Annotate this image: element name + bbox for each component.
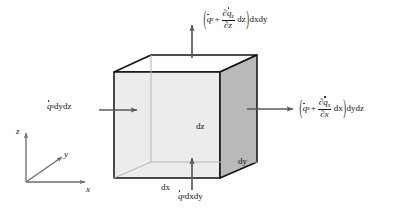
flux-out-z-q: q — [207, 15, 212, 24]
flux-out-z-fraction: ∂qz ∂z — [222, 9, 235, 30]
flux-out-x-close-paren: ) — [343, 99, 347, 119]
flux-out-x-q: q — [303, 104, 308, 113]
flux-out-z-close-paren: ) — [246, 10, 250, 30]
flux-in-x-label: qx dydz — [47, 102, 71, 111]
flux-out-z-label: ( qz + ∂qz ∂z dz ) dxdy — [203, 9, 267, 30]
heat-conduction-differential-element-figure: ( qz + ∂qz ∂z dz ) dxdy qx dydz ( qx — [0, 0, 396, 210]
dimension-label-dy: dy — [238, 157, 247, 166]
control-volume-cube — [114, 55, 257, 178]
flux-in-z-q: q — [178, 192, 183, 201]
flux-out-x-tail: dydz — [347, 104, 365, 113]
flux-out-x-den-var: x — [325, 109, 329, 119]
flux-in-z-label: qz dxdy — [178, 192, 203, 201]
flux-out-z-dz: dz — [236, 15, 246, 24]
flux-out-z-tail: dxdy — [249, 15, 267, 24]
axis-label-y: y — [64, 150, 68, 159]
flux-out-z-num-q-sub: z — [231, 14, 233, 20]
axis-label-z: z — [16, 127, 20, 136]
flux-out-z-plus: + — [213, 15, 220, 24]
flux-out-x-num-q-sub: x — [328, 103, 330, 109]
axis-y-line — [26, 157, 62, 182]
flux-out-x-dx: dx — [332, 104, 343, 113]
dimension-label-dx: dx — [161, 183, 170, 192]
flux-in-x-q: q — [47, 102, 52, 111]
coordinate-axes — [26, 133, 85, 182]
flux-out-x-fraction: ∂qx ∂x — [318, 98, 331, 119]
dimension-label-dz: dz — [196, 122, 205, 131]
axis-label-x: x — [86, 185, 90, 194]
flux-out-x-label: ( qx + ∂qx ∂x dx ) dydz — [299, 98, 364, 119]
flux-in-x-tail: dydz — [54, 102, 72, 111]
flux-out-x-plus: + — [310, 104, 317, 113]
flux-out-z-num-q: q — [227, 9, 232, 18]
flux-in-z-tail: dxdy — [185, 192, 203, 201]
flux-out-z-den-var: z — [229, 20, 233, 30]
flux-out-x-num-q: q — [323, 98, 328, 107]
